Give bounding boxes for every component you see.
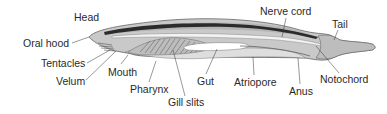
label-mouth: Mouth (108, 67, 137, 78)
label-gill-slits: Gill slits (168, 97, 204, 108)
label-head: Head (74, 12, 99, 23)
label-velum: Velum (56, 76, 85, 87)
label-gut: Gut (197, 76, 214, 87)
label-tentacles: Tentacles (41, 58, 85, 69)
label-oral-hood: Oral hood (23, 38, 69, 49)
label-pharynx: Pharynx (130, 84, 169, 95)
label-tail: Tail (332, 19, 348, 30)
lancelet-diagram: Head Oral hood Tentacles Velum Mouth Pha… (0, 0, 387, 114)
label-anus: Anus (289, 86, 313, 97)
label-nerve-cord: Nerve cord (260, 6, 311, 17)
label-notochord: Notochord (320, 74, 368, 85)
label-atriopore: Atriopore (234, 77, 277, 88)
tail-fin (316, 35, 375, 59)
